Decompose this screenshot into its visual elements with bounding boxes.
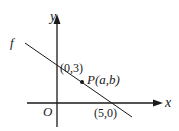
point-p-dot [80,80,84,84]
x-intercept-label: (5,0) [94,106,117,120]
y-intercept-label: (0,3) [60,61,83,75]
coordinate-diagram: y x O f (0,3) (5,0) P(a,b) [0,0,179,131]
point-p-name: P [86,72,95,87]
line-f-label: f [10,35,16,50]
x-axis-arrow-icon [153,100,163,107]
point-p-args: (a,b) [95,72,120,87]
point-p-label: P(a,b) [86,72,120,87]
x-axis-label: x [164,95,172,110]
y-axis-label: y [48,9,57,24]
origin-label: O [43,104,53,119]
